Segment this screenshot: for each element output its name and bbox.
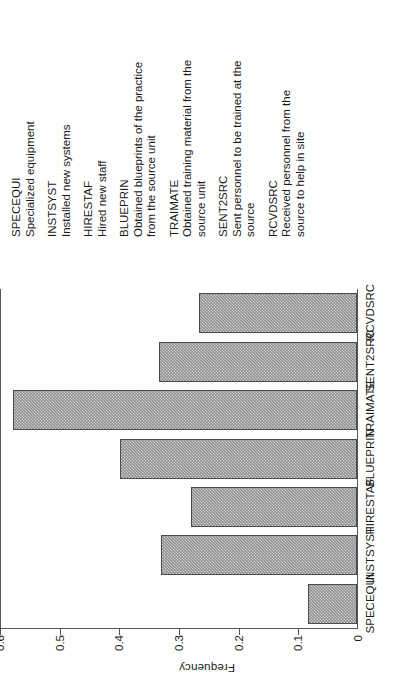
y-tick-mark (0, 629, 1, 635)
y-tick-label: 0.4 (113, 635, 125, 651)
x-tick-label-wrap: SENT2SRC (360, 341, 410, 381)
bar-slot (1, 487, 357, 527)
y-tick-label: 0.3 (173, 635, 185, 651)
bar-instsyst (161, 535, 357, 575)
legend-entry-description: Obtained training material from the sour… (181, 57, 208, 237)
legend-entry: HIRESTAFHired new staff (82, 5, 109, 237)
bar-specequi (308, 584, 357, 624)
legend-entry-code: SENT2SRC (217, 5, 231, 237)
bar-traimate (13, 390, 357, 430)
y-tick-label: 0.2 (233, 635, 245, 651)
bar-slot (1, 439, 357, 479)
bar-rcvdsrc (199, 293, 357, 333)
bar-sent2src (159, 342, 357, 382)
y-tick-mark (179, 629, 180, 635)
bar-blueprin (120, 439, 357, 479)
x-tick-label-wrap: SPECEQUI (360, 584, 410, 624)
plot-block: Frequency 00.10.20.30.40.50.6 SPECEQUIIN… (0, 245, 413, 685)
x-tick-label: RCVDSRC (364, 284, 376, 341)
bar-slot (1, 390, 357, 430)
legend-entry-description: Specialized equipment (24, 57, 38, 237)
bar-slot (1, 342, 357, 382)
legend-entry: SENT2SRCSent personnel to be trained at … (217, 5, 258, 237)
x-tick-label: HIRESTAF (364, 479, 376, 535)
legend-entry: INSTSYSTInstalled new systems (46, 5, 73, 237)
bar-series (1, 289, 357, 628)
legend-entry-code: BLUEPRIN (118, 5, 132, 237)
x-tick-label: INSTSYST (364, 527, 376, 583)
figure-rotator: Frequency 00.10.20.30.40.50.6 SPECEQUIIN… (0, 0, 413, 685)
y-tick-mark (60, 629, 61, 635)
legend-entry-code: HIRESTAF (82, 5, 96, 237)
y-axis-title-text: Frequency (178, 662, 234, 674)
bar-slot (1, 535, 357, 575)
legend-entry: BLUEPRINObtained blueprints of the pract… (118, 5, 159, 237)
legend-entry-description: Installed new systems (60, 57, 74, 237)
legend-entry-description: Obtained blueprints of the practice from… (132, 57, 159, 237)
legend-entry: SPECEQUISpecialized equipment (10, 5, 37, 237)
legend-entry-description: Received personnel from the source to he… (280, 57, 307, 237)
x-tick-label-wrap: RCVDSRC (360, 292, 410, 332)
legend-entry-description: Hired new staff (96, 57, 110, 237)
legend-entry-code: SPECEQUI (10, 5, 24, 237)
legend-entry-code: INSTSYST (46, 5, 60, 237)
bar-chart-figure: Frequency 00.10.20.30.40.50.6 SPECEQUIIN… (0, 0, 413, 685)
y-tick-mark (239, 629, 240, 635)
legend-entry-description: Sent personnel to be trained at the sour… (231, 57, 258, 237)
axis-spine-bottom (357, 289, 358, 629)
legend-entry-code: TRAIMATE (168, 5, 182, 237)
x-tick-label-wrap: INSTSYST (360, 535, 410, 575)
legend-entry: TRAIMATEObtained training material from … (168, 5, 209, 237)
y-tick-label: 0 (352, 635, 364, 641)
bar-slot (1, 584, 357, 624)
y-tick-label: 0.6 (0, 635, 6, 651)
bar-slot (1, 293, 357, 333)
legend-entry: RCVDSRCReceived personnel from the sourc… (267, 5, 308, 237)
x-tick-label-wrap: BLUEPRIN (360, 438, 410, 478)
y-axis-title: Frequency (0, 659, 413, 677)
bar-hirestaf (191, 487, 357, 527)
y-tick-mark (119, 629, 120, 635)
y-tick-label: 0.5 (54, 635, 66, 651)
y-axis-tick-labels: 00.10.20.30.40.50.6 (0, 633, 413, 659)
legend: SPECEQUISpecialized equipmentINSTSYSTIns… (10, 5, 405, 237)
plot-axes (0, 289, 358, 629)
legend-entry-code: RCVDSRC (267, 5, 281, 237)
x-tick-label-wrap: HIRESTAF (360, 487, 410, 527)
x-axis-tick-labels: SPECEQUIINSTSYSTHIRESTAFBLUEPRINTRAIMATE… (360, 288, 410, 628)
x-tick-label-wrap: TRAIMATE (360, 389, 410, 429)
y-tick-mark (298, 629, 299, 635)
y-tick-label: 0.1 (292, 635, 304, 651)
